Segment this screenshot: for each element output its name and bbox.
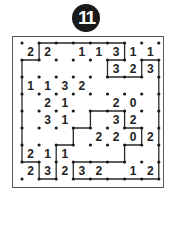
clue-cell: 2 — [27, 164, 34, 178]
clue-cell: 3 — [147, 62, 154, 76]
grid-dot — [55, 126, 58, 129]
clue-cell: 1 — [130, 164, 137, 178]
grid-dot — [157, 160, 160, 163]
clue-cell: 1 — [147, 45, 154, 59]
clue-cell: 3 — [44, 164, 51, 178]
grid-dot — [72, 160, 75, 163]
clue-cell: 1 — [61, 96, 68, 110]
grid-dot — [140, 143, 143, 146]
clue-cell: 3 — [113, 45, 120, 59]
clue-cell: 3 — [44, 113, 51, 127]
grid-dot — [72, 58, 75, 61]
grid-dot — [106, 160, 109, 163]
grid-dot — [20, 109, 23, 112]
clue-cell: 1 — [44, 79, 51, 93]
clue-cell: 2 — [147, 130, 154, 144]
grid-dot — [20, 143, 23, 146]
grid-dot — [55, 58, 58, 61]
grid-dot — [89, 109, 92, 112]
clue-cell: 1 — [61, 147, 68, 161]
clue-cell: 2 — [96, 130, 103, 144]
grid-dot — [106, 109, 109, 112]
clue-cell: 2 — [61, 164, 68, 178]
clue-cell: 2 — [27, 45, 34, 59]
grid-dot — [123, 109, 126, 112]
grid-dot — [106, 92, 109, 95]
grid-dot — [89, 58, 92, 61]
grid-dot — [55, 41, 58, 44]
grid-dot — [123, 177, 126, 180]
grid-dot — [157, 41, 160, 44]
grid-dot — [55, 160, 58, 163]
grid-dot — [20, 58, 23, 61]
grid-dot — [106, 41, 109, 44]
grid-dot — [157, 92, 160, 95]
grid-dot — [72, 177, 75, 180]
grid-dot — [72, 75, 75, 78]
grid-dot — [20, 41, 23, 44]
clue-cell: 2 — [130, 62, 137, 76]
clue-cell: 3 — [61, 79, 68, 93]
clue-cell: 3 — [113, 113, 120, 127]
grid-dot — [55, 92, 58, 95]
grid-dot — [106, 126, 109, 129]
grid-dot — [157, 58, 160, 61]
grid-dot — [20, 160, 23, 163]
clue-cell: 2 — [44, 45, 51, 59]
clue-cell: 0 — [130, 96, 137, 110]
grid-dot — [106, 177, 109, 180]
grid-dot — [38, 58, 41, 61]
grid-dot — [123, 58, 126, 61]
grid-dot — [38, 160, 41, 163]
grid-dot — [123, 92, 126, 95]
grid-dot — [20, 75, 23, 78]
clue-cell: 0 — [130, 130, 137, 144]
clue-cell: 2 — [96, 164, 103, 178]
grid-dot — [106, 75, 109, 78]
grid-dot — [157, 75, 160, 78]
clue-cell: 1 — [44, 147, 51, 161]
grid-dot — [123, 160, 126, 163]
grid-dot — [89, 143, 92, 146]
grid-dot — [20, 92, 23, 95]
grid-dot — [55, 109, 58, 112]
grid-dot — [89, 92, 92, 95]
grid-dot — [38, 177, 41, 180]
clue-cell: 1 — [130, 45, 137, 59]
clue-cell: 2 — [44, 96, 51, 110]
grid-dot — [89, 160, 92, 163]
clue-cell: 3 — [79, 164, 86, 178]
grid-dot — [123, 126, 126, 129]
clue-cell: 2 — [130, 113, 137, 127]
grid-dot — [123, 143, 126, 146]
grid-dot — [106, 58, 109, 61]
grid-dot — [157, 143, 160, 146]
grid-dot — [38, 126, 41, 129]
grid-dot — [55, 75, 58, 78]
clue-cell: 2 — [27, 147, 34, 161]
grid-dot — [140, 177, 143, 180]
grid-dot — [38, 92, 41, 95]
clue-cell: 1 — [96, 45, 103, 59]
grid-dot — [55, 143, 58, 146]
grid-dot — [20, 126, 23, 129]
grid-dot — [38, 75, 41, 78]
grid-dot — [123, 41, 126, 44]
grid-dot — [72, 143, 75, 146]
grid-dot — [123, 75, 126, 78]
grid-dot — [140, 126, 143, 129]
clue-cell: 3 — [113, 62, 120, 76]
clue-cell: 1 — [27, 79, 34, 93]
grid-dot — [106, 143, 109, 146]
grid-dot — [72, 126, 75, 129]
grid-dot — [38, 109, 41, 112]
clue-cell: 2 — [113, 130, 120, 144]
grid-dot — [140, 160, 143, 163]
clue-cell: 2 — [147, 164, 154, 178]
slitherlink-board[interactable]: 221131132311322120313222022112323212 — [12, 36, 164, 188]
grid-dot — [72, 109, 75, 112]
grid-dot — [72, 41, 75, 44]
clue-cell: 1 — [61, 113, 68, 127]
puzzle-grid[interactable]: 221131132311322120313222022112323212 — [13, 37, 165, 189]
grid-dot — [89, 41, 92, 44]
